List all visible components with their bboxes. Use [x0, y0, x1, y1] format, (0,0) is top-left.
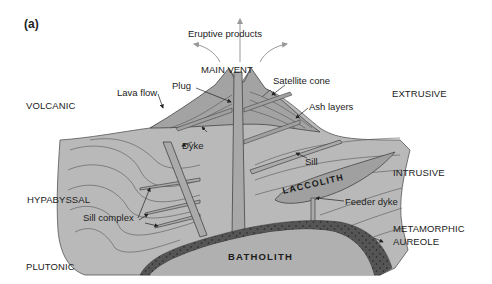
zone-intrusive: INTRUSIVE: [393, 168, 445, 178]
label-dyke: Dyke: [182, 141, 204, 151]
eruptive-arrows: [194, 19, 287, 62]
zone-metamorphic: METAMORPHIC: [393, 224, 465, 234]
panel-label: (a): [24, 18, 39, 30]
zone-volcanic: VOLCANIC: [26, 101, 75, 111]
label-satellite-cone: Satellite cone: [273, 76, 330, 86]
zone-plutonic: PLUTONIC: [26, 262, 75, 272]
label-feeder-dyke: Feeder dyke: [345, 197, 398, 207]
label-batholith: BATHOLITH: [228, 252, 293, 262]
zone-aureole: AUREOLE: [393, 237, 439, 247]
label-sill: Sill: [305, 157, 318, 167]
volcano-diagram: (a) Eruptive products MAIN VENT Plug Lav…: [0, 0, 492, 284]
label-lava-flow: Lava flow: [117, 88, 157, 98]
label-ash-layers: Ash layers: [309, 102, 353, 112]
label-plug: Plug: [172, 81, 191, 91]
label-main-vent: MAIN VENT: [201, 65, 253, 75]
label-eruptive-products: Eruptive products: [188, 29, 262, 39]
zone-extrusive: EXTRUSIVE: [392, 89, 447, 99]
zone-hypabyssal: HYPABYSSAL: [27, 195, 90, 205]
label-sill-complex: Sill complex: [83, 213, 134, 223]
